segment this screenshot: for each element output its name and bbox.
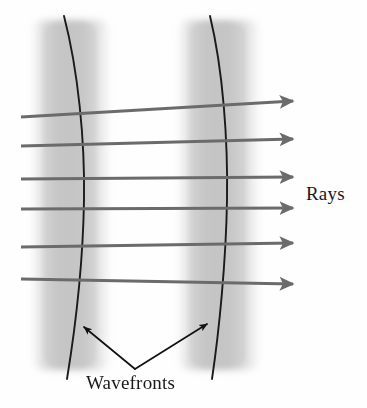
wavefront-band-highlights [44,24,246,366]
wavefront-ray-diagram: Rays Wavefronts [0,0,367,408]
wavefronts-label: Wavefronts [86,372,175,394]
band-core-left [44,24,96,366]
rays-label: Rays [306,183,345,205]
ray-3 [21,177,293,179]
band-core-right [190,24,246,366]
ray-4 [21,208,293,209]
